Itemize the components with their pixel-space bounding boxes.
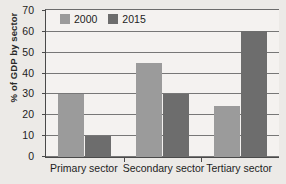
x-axis-label: Secondary sector	[123, 162, 201, 174]
y-tick-label: 10	[8, 129, 34, 141]
x-axis-labels: Primary sectorSecondary sectorTertiary s…	[45, 162, 278, 178]
y-tick-mark	[42, 52, 46, 53]
bar	[241, 31, 267, 156]
plot-area: 010203040506070	[45, 9, 279, 158]
y-tick-mark	[42, 10, 46, 11]
y-tick-label: 40	[8, 67, 34, 79]
chart-legend: 20002015	[60, 13, 146, 25]
legend-swatch	[108, 14, 118, 24]
bar-group	[124, 11, 202, 157]
x-axis-label: Tertiary sector	[200, 162, 278, 174]
y-tick-mark	[42, 135, 46, 136]
legend-swatch	[60, 14, 70, 24]
y-tick-mark	[42, 156, 46, 157]
legend-entry: 2000	[60, 13, 97, 25]
legend-label: 2015	[122, 13, 145, 25]
bar	[58, 94, 84, 157]
x-axis-label: Primary sector	[45, 162, 123, 174]
bar-group	[46, 11, 124, 157]
x-axis-line	[46, 157, 279, 159]
y-tick-label: 50	[8, 46, 34, 58]
bar	[85, 136, 111, 157]
y-tick-mark	[42, 93, 46, 94]
y-tick-label: 30	[8, 87, 34, 99]
bar	[136, 63, 162, 157]
legend-label: 2000	[74, 13, 97, 25]
y-tick-mark	[42, 114, 46, 115]
bar-chart-figure: % of GDP by sector 010203040506070 Prima…	[0, 0, 286, 184]
y-tick-label: 20	[8, 108, 34, 120]
legend-entry: 2015	[108, 13, 145, 25]
y-tick-mark	[42, 31, 46, 32]
y-tick-label: 70	[8, 4, 34, 16]
bar	[163, 94, 189, 157]
y-tick-label: 0	[8, 150, 34, 162]
bar	[214, 106, 240, 156]
y-tick-label: 60	[8, 25, 34, 37]
bar-group	[201, 11, 279, 157]
y-tick-mark	[42, 73, 46, 74]
